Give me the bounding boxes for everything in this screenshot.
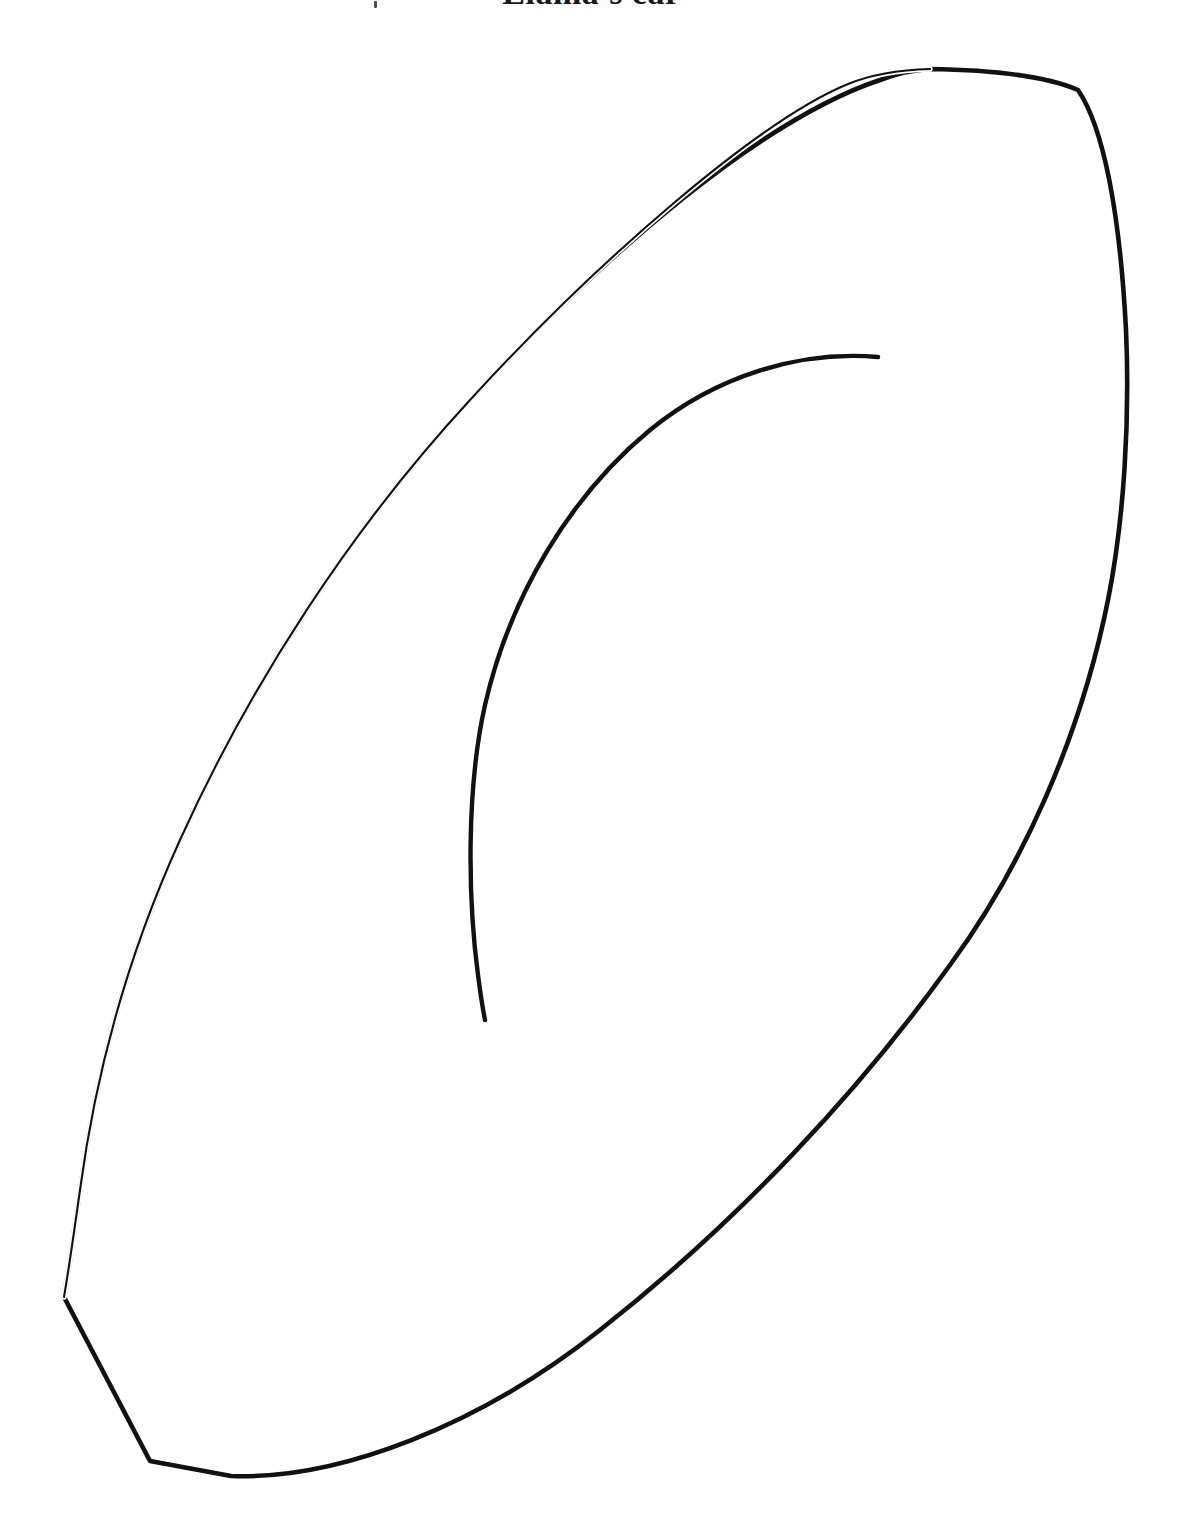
llama-ear-artwork (0, 0, 1183, 1536)
ear-inner-contour-line (471, 356, 878, 1020)
ear-outer-outline-light (64, 69, 930, 1297)
scan-speck-mark (374, 1, 377, 8)
ear-outer-outline-heavy (64, 69, 1127, 1476)
ear-outer-outline-group (64, 69, 1127, 1476)
page-canvas: Llama's ear (0, 0, 1183, 1536)
ear-outer-outline-light-ink (64, 69, 930, 1297)
